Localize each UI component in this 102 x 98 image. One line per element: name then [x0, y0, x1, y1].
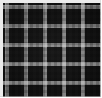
- vertical-thread-texture: [0, 0, 101, 97]
- softening-overlay: [0, 0, 101, 97]
- texture-swatch: [0, 0, 101, 97]
- bottom-selvedge-edge: [0, 96, 101, 98]
- top-selvedge-edge: [0, 0, 101, 3]
- horizontal-thread-texture: [0, 0, 101, 97]
- right-selvedge-edge: [100, 0, 102, 97]
- left-selvedge-edge: [0, 0, 3, 97]
- vignette-overlay: [0, 0, 101, 97]
- weft-stripe-layer: [0, 0, 101, 97]
- warp-stripe-layer: [0, 0, 101, 97]
